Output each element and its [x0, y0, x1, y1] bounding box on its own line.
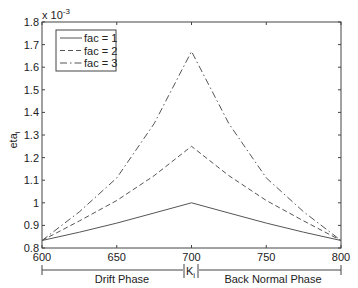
y-tick-label: 1.2	[24, 152, 39, 164]
y-tick-label: 1.6	[24, 61, 39, 73]
phase-annotation: Ki Drift Phase Back Normal Phase	[42, 263, 341, 286]
y-tick-label: 1	[33, 197, 39, 209]
y-multiplier: x 10-3	[42, 7, 70, 21]
legend-label: fac = 2	[84, 45, 117, 57]
y-tick-label: 1.8	[24, 16, 39, 28]
x-tick-label: 700	[182, 251, 200, 263]
drift-phase-label: Drift Phase	[95, 273, 149, 285]
chart: 0.80.911.11.21.31.41.51.61.71.8 60065070…	[0, 0, 358, 288]
x-tick-label: 750	[257, 251, 275, 263]
y-tick-label: 1.5	[24, 84, 39, 96]
back-normal-phase-label: Back Normal Phase	[224, 273, 321, 285]
y-tick-label: 1.7	[24, 39, 39, 51]
legend: fac = 1fac = 2fac = 3	[56, 30, 117, 71]
x-tick-label: 600	[33, 251, 51, 263]
y-axis-label: etai	[7, 131, 22, 148]
x-tick-label: 650	[108, 251, 126, 263]
y-tick-label: 1.1	[24, 174, 39, 186]
y-tick-label: 0.9	[24, 219, 39, 231]
y-tick-label: 1.4	[24, 106, 39, 118]
legend-label: fac = 3	[84, 57, 117, 69]
legend-label: fac = 1	[84, 32, 117, 44]
x-tick-label: 800	[332, 251, 350, 263]
y-tick-label: 1.3	[24, 129, 39, 141]
